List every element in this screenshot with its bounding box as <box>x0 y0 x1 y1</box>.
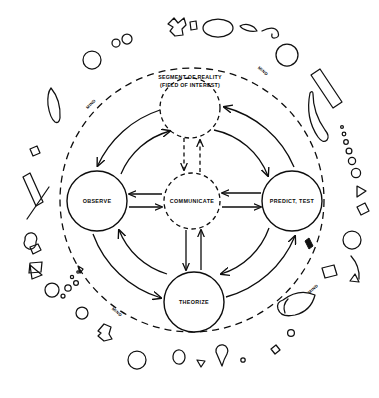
node-observe[interactable]: OBSERVE <box>67 171 127 231</box>
small-quad-icon <box>30 146 40 156</box>
small-quad-icon <box>357 203 369 215</box>
ellipse-icon <box>203 19 233 37</box>
dot-icon <box>70 275 73 278</box>
link-communicate-theorize <box>186 230 201 270</box>
circle-icon <box>45 283 59 297</box>
balloon-shape-icon <box>216 345 228 366</box>
node-communicate[interactable]: COMMUNICATE <box>164 173 220 229</box>
blob-shape-icon <box>98 324 112 341</box>
node-predict-test-label: PREDICT, TEST <box>270 198 315 204</box>
segment-of-reality-label-line2: (FIELD OF INTEREST) <box>160 82 220 88</box>
circle-icon <box>122 34 132 44</box>
hook-curve-icon <box>262 28 279 38</box>
circle-icon <box>343 231 361 249</box>
arc-stroke-icon <box>351 256 359 279</box>
link-communicate-predict <box>222 193 261 207</box>
arc-predict-to-theorize <box>221 228 269 274</box>
dot-icon <box>348 157 355 164</box>
dot-icon <box>65 285 71 291</box>
node-communicate-label: COMMUNICATE <box>170 198 215 204</box>
circle-icon <box>76 307 88 319</box>
swoosh-shape-icon <box>278 292 315 315</box>
dot-icon <box>344 140 349 145</box>
arc-theorize-to-observe <box>119 230 167 274</box>
node-theorize-label: THEORIZE <box>179 299 209 305</box>
dark-bar-icon <box>305 238 313 249</box>
diagram-root: SEGMENT OF REALITY (FIELD OF INTEREST) O… <box>0 0 379 398</box>
mind-label-bottom-left: MIND <box>111 306 123 317</box>
rod-shape-icon <box>311 69 342 108</box>
node-observe-label: OBSERVE <box>83 198 112 204</box>
half-disc-icon <box>240 24 257 31</box>
node-predict-test[interactable]: PREDICT, TEST <box>262 171 322 231</box>
mind-label-top-right: MIND <box>257 65 269 76</box>
circle-icon <box>276 44 298 66</box>
dot-icon <box>61 294 65 298</box>
small-quad-icon <box>190 21 197 30</box>
link-observe-communicate <box>129 194 162 207</box>
blade-shape-icon <box>48 88 60 123</box>
circle-icon <box>128 351 146 369</box>
circle-icon <box>83 51 101 69</box>
arc-reality-to-observe <box>98 110 161 166</box>
arrow-head-icon <box>350 274 359 282</box>
swoosh-inner-icon <box>284 299 288 313</box>
small-quad-icon <box>271 345 280 354</box>
small-quad-icon <box>322 265 337 278</box>
node-theorize[interactable]: THEORIZE <box>164 272 224 332</box>
dot-icon <box>74 281 79 286</box>
mind-label-bottom-right: MIND <box>307 283 319 295</box>
dot-icon <box>241 358 245 362</box>
arc-observe-to-theorize <box>93 234 161 298</box>
triangle-icon <box>357 186 366 197</box>
dot-icon <box>351 168 360 177</box>
blob-shape-icon <box>168 18 186 36</box>
dot-icon <box>341 126 344 129</box>
tiny-triangle-icon <box>197 360 205 367</box>
dot-icon <box>346 148 352 154</box>
dot-icon <box>342 132 346 136</box>
curved-hook-icon <box>309 92 329 142</box>
diagram-canvas: SEGMENT OF REALITY (FIELD OF INTEREST) O… <box>0 0 379 398</box>
arc-reality-to-predict <box>214 130 268 176</box>
dot-icon <box>288 330 295 337</box>
hexagon-icon <box>173 350 185 364</box>
segment-of-reality-label-line1: SEGMENT OF REALITY <box>158 74 222 80</box>
link-reality-communicate <box>184 138 200 172</box>
circle-icon <box>112 39 120 47</box>
mind-label-top-left: MIND <box>85 98 97 110</box>
arc-observe-to-reality <box>121 131 170 174</box>
